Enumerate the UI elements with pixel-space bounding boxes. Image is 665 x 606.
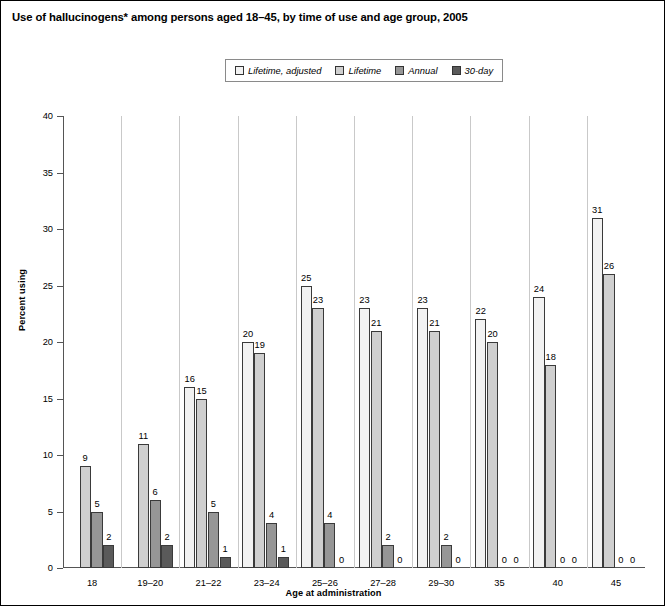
bar-value-label: 0 xyxy=(623,556,642,565)
y-tick-35 xyxy=(57,173,63,174)
bar-35-lifetime[interactable] xyxy=(487,342,498,568)
group-separator-7 xyxy=(470,116,471,568)
bar-2324-lifetimeadjusted[interactable] xyxy=(242,342,253,568)
bar-35-lifetimeadjusted[interactable] xyxy=(475,319,486,568)
legend-item-0[interactable]: Lifetime, adjusted xyxy=(235,66,321,76)
bar-40-lifetime[interactable] xyxy=(545,365,556,568)
y-tick-20 xyxy=(57,342,63,343)
bar-1920-30day[interactable] xyxy=(161,545,172,568)
bar-value-label: 5 xyxy=(87,500,106,509)
legend-swatch-lifetime-adjusted xyxy=(235,66,244,75)
bar-40-lifetimeadjusted[interactable] xyxy=(533,297,544,568)
bar-value-label: 0 xyxy=(448,556,467,565)
legend-swatch-annual xyxy=(395,66,404,75)
bar-value-label: 21 xyxy=(425,319,444,328)
x-tick-label-4: 25–26 xyxy=(296,578,354,588)
bar-2526-lifetime[interactable] xyxy=(312,308,323,568)
y-tick-label-20: 20 xyxy=(27,338,53,347)
chart-legend: Lifetime, adjustedLifetimeAnnual30-day xyxy=(225,59,503,82)
bar-value-label: 31 xyxy=(588,206,607,215)
y-tick-5 xyxy=(57,512,63,513)
bar-45-lifetime[interactable] xyxy=(603,274,614,568)
y-tick-label-10: 10 xyxy=(27,451,53,460)
plot-area: 95218116219–2016155121–2220194123–242523… xyxy=(63,116,645,568)
bar-value-label: 18 xyxy=(541,353,560,362)
chart-title: Use of hallucinogens* among persons aged… xyxy=(12,11,652,24)
bar-value-label: 24 xyxy=(529,285,548,294)
bar-value-label: 15 xyxy=(192,387,211,396)
bar-value-label: 0 xyxy=(565,556,584,565)
bar-value-label: 2 xyxy=(99,533,118,542)
x-tick-label-9: 45 xyxy=(587,578,645,588)
bar-value-label: 16 xyxy=(180,375,199,384)
y-tick-label-0: 0 xyxy=(27,564,53,573)
x-tick-label-3: 23–24 xyxy=(238,578,296,588)
y-tick-15 xyxy=(57,399,63,400)
y-tick-label-5: 5 xyxy=(27,508,53,517)
bar-value-label: 1 xyxy=(216,545,235,554)
bar-2122-30day[interactable] xyxy=(220,557,231,568)
bar-value-label: 0 xyxy=(332,556,351,565)
bar-value-label: 11 xyxy=(134,432,153,441)
y-axis-line xyxy=(63,116,64,568)
bar-2122-lifetimeadjusted[interactable] xyxy=(184,387,195,568)
legend-item-3[interactable]: 30-day xyxy=(452,66,494,76)
y-tick-label-25: 25 xyxy=(27,282,53,291)
bar-value-label: 9 xyxy=(76,454,95,463)
bar-value-label: 26 xyxy=(599,262,618,271)
bar-value-label: 20 xyxy=(238,330,257,339)
x-tick-label-8: 40 xyxy=(529,578,587,588)
bar-2930-lifetimeadjusted[interactable] xyxy=(417,308,428,568)
bar-2526-lifetimeadjusted[interactable] xyxy=(301,286,312,569)
bar-value-label: 6 xyxy=(146,488,165,497)
y-tick-label-15: 15 xyxy=(27,395,53,404)
legend-item-1[interactable]: Lifetime xyxy=(335,66,381,76)
group-separator-3 xyxy=(238,116,239,568)
bar-2324-30day[interactable] xyxy=(278,557,289,568)
bar-value-label: 21 xyxy=(367,319,386,328)
legend-label-1: Lifetime xyxy=(348,66,381,76)
bar-value-label: 1 xyxy=(274,545,293,554)
y-tick-label-40: 40 xyxy=(27,112,53,121)
legend-label-0: Lifetime, adjusted xyxy=(248,66,321,76)
bar-2728-lifetimeadjusted[interactable] xyxy=(359,308,370,568)
group-separator-1 xyxy=(121,116,122,568)
legend-item-2[interactable]: Annual xyxy=(395,66,437,76)
y-tick-25 xyxy=(57,286,63,287)
bar-value-label: 23 xyxy=(355,296,374,305)
legend-swatch-30-day xyxy=(452,66,461,75)
legend-label-3: 30-day xyxy=(465,66,494,76)
bar-2930-lifetime[interactable] xyxy=(429,331,440,568)
bar-1920-lifetime[interactable] xyxy=(138,444,149,568)
group-separator-8 xyxy=(529,116,530,568)
bar-value-label: 23 xyxy=(413,296,432,305)
y-tick-0 xyxy=(57,568,63,569)
bar-value-label: 25 xyxy=(297,274,316,283)
bar-value-label: 23 xyxy=(308,296,327,305)
y-tick-10 xyxy=(57,455,63,456)
bar-18-lifetime[interactable] xyxy=(80,466,91,568)
bar-2122-lifetime[interactable] xyxy=(196,399,207,569)
x-tick-label-7: 35 xyxy=(470,578,528,588)
bar-value-label: 22 xyxy=(471,307,490,316)
bar-2324-lifetime[interactable] xyxy=(254,353,265,568)
group-separator-9 xyxy=(587,116,588,568)
bar-value-label: 0 xyxy=(507,556,526,565)
group-separator-2 xyxy=(179,116,180,568)
group-separator-6 xyxy=(412,116,413,568)
bar-value-label: 2 xyxy=(378,533,397,542)
bar-value-label: 4 xyxy=(320,511,339,520)
bar-2728-lifetime[interactable] xyxy=(371,331,382,568)
legend-label-2: Annual xyxy=(408,66,437,76)
y-tick-label-30: 30 xyxy=(27,225,53,234)
bar-value-label: 19 xyxy=(250,341,269,350)
bar-18-30day[interactable] xyxy=(103,545,114,568)
x-tick-label-0: 18 xyxy=(63,578,121,588)
x-tick-label-6: 29–30 xyxy=(412,578,470,588)
y-tick-30 xyxy=(57,229,63,230)
chart-figure: Use of hallucinogens* among persons aged… xyxy=(0,0,665,606)
bar-2122-annual[interactable] xyxy=(208,512,219,569)
x-tick-label-5: 27–28 xyxy=(354,578,412,588)
group-separator-4 xyxy=(296,116,297,568)
y-axis-label: Percent using xyxy=(17,269,27,331)
